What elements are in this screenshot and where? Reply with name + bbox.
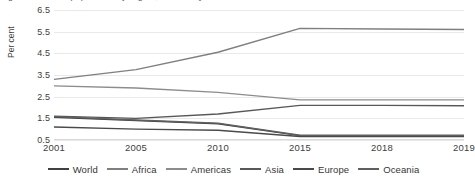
y-axis-label: Per cent xyxy=(6,0,16,58)
legend-label: Europe xyxy=(318,164,349,175)
legend-label: Africa xyxy=(132,164,157,175)
legend-swatch xyxy=(107,168,128,170)
y-tick-label: 1.5 xyxy=(24,113,50,123)
x-tick-label: 2018 xyxy=(371,142,393,153)
y-tick-label: 4.5 xyxy=(24,48,50,58)
y-tick-label: 6.5 xyxy=(24,5,50,15)
series-line xyxy=(54,117,464,136)
legend-label: Oceania xyxy=(383,164,419,175)
x-tick-label: 2005 xyxy=(125,142,147,153)
legend-item[interactable]: Europe xyxy=(293,164,349,175)
plot-area xyxy=(54,10,464,140)
legend-label: World xyxy=(73,164,98,175)
legend-swatch xyxy=(358,168,379,170)
gridline xyxy=(54,140,464,141)
legend-item[interactable]: Africa xyxy=(107,164,157,175)
y-tick-label: 5.5 xyxy=(24,27,50,37)
x-tick-label: 2015 xyxy=(289,142,311,153)
y-tick-label: 2.5 xyxy=(24,92,50,102)
series-lines xyxy=(54,10,464,140)
chart-legend: WorldAfricaAmericasAsiaEuropeOceania xyxy=(0,161,467,177)
legend-label: Americas xyxy=(191,164,231,175)
legend-item[interactable]: Asia xyxy=(240,164,284,175)
series-line xyxy=(54,28,464,79)
x-tick-label: 2010 xyxy=(207,142,229,153)
legend-swatch xyxy=(240,168,261,170)
series-line xyxy=(54,86,464,100)
legend-item[interactable]: Americas xyxy=(166,164,231,175)
x-tick-label: 2001 xyxy=(43,142,65,153)
x-tick-label: 2019 xyxy=(453,142,475,153)
plot-area-wrapper: Per cent 6.55.54.53.52.51.50.5 xyxy=(0,10,467,140)
legend-item[interactable]: Oceania xyxy=(358,164,419,175)
legend-swatch xyxy=(48,168,69,170)
legend-label: Asia xyxy=(265,164,284,175)
legend-swatch xyxy=(166,168,187,170)
legend-item[interactable]: World xyxy=(48,164,98,175)
series-line xyxy=(54,105,464,118)
chart-title-sliver: Figure: Share of population by region, s… xyxy=(0,0,467,3)
y-tick-label: 3.5 xyxy=(24,70,50,80)
legend-swatch xyxy=(293,168,314,170)
x-axis-tick-labels: 200120052010201520182019 xyxy=(54,142,464,156)
y-axis-tick-labels: 6.55.54.53.52.51.50.5 xyxy=(22,10,50,140)
